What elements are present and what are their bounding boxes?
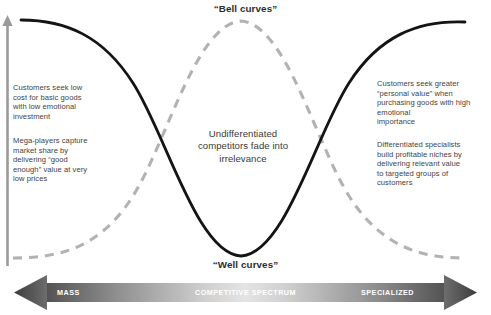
note-line: Differentiated specialists [377,140,491,150]
note-line: “personal value” when [377,89,491,99]
note-line: with low emotional [13,102,123,112]
bell-curves-label: “Bell curves” [0,3,491,14]
note-line: delivering “good [13,155,123,165]
note-line: to targeted groups of [377,169,491,179]
spectrum-labels: MASS COMPETITIVE SPECTRUM SPECIALIZED [13,278,478,308]
note-line: delivering relevant value [377,159,491,169]
note-line: purchasing goods with high [377,98,491,108]
spectrum-label-specialized: SPECIALIZED [361,288,414,297]
note-undifferentiated-center: Undifferentiated competitors fade into i… [168,128,318,165]
note-line: build profitable niches by [377,150,491,160]
note-line: Undifferentiated [168,128,318,140]
note-line: emotional [377,108,491,118]
note-line: investment [13,112,123,122]
note-line: low prices [13,174,123,184]
note-line: competitors fade into [168,140,318,152]
diagram-canvas: “Bell curves” “Well curves” Customers se… [0,0,491,315]
note-line: enough” value at very [13,165,123,175]
note-specialized-customers: Customers seek greater “personal value” … [377,79,491,127]
note-line: importance [377,117,491,127]
vertical-axis-arrow [2,15,12,266]
note-line: market share by [13,146,123,156]
note-line: Customers seek low [13,83,123,93]
note-mass-customers: Customers seek low cost for basic goods … [13,83,123,121]
note-line: customers [377,178,491,188]
note-line: Customers seek greater [377,79,491,89]
note-line: irrelevance [168,153,318,165]
well-curves-label: “Well curves” [0,259,491,270]
note-line: cost for basic goods [13,93,123,103]
note-mega-players: Mega-players capture market share by del… [13,136,123,184]
note-differentiated-specialists: Differentiated specialists build profita… [377,140,491,188]
note-line: Mega-players capture [13,136,123,146]
